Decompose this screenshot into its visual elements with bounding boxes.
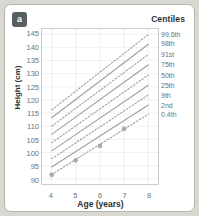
y-tick-label: 120: [13, 95, 39, 104]
y-tick-label: 145: [13, 29, 39, 38]
centile-label: 2nd: [161, 101, 173, 108]
figure-card: a Centiles Height (cm) Age (years) 90951…: [4, 4, 195, 212]
centile-legend: 99.6th98th91st75th50th25th9th2nd0.4th: [161, 28, 195, 185]
centile-label: 75th: [161, 61, 175, 68]
y-axis-tick-labels: 9095100105110115120125130135140145: [11, 28, 39, 185]
centile-label: 50th: [161, 71, 175, 78]
y-tick-label: 105: [13, 135, 39, 144]
centile-label: 98th: [161, 40, 175, 47]
y-tick-label: 135: [13, 55, 39, 64]
y-tick-label: 95: [13, 162, 39, 171]
x-tick-label: 6: [90, 191, 110, 200]
centile-label: 0.4th: [161, 111, 177, 118]
centile-label: 25th: [161, 81, 175, 88]
x-axis-tick-labels: 45678: [41, 191, 159, 203]
y-tick-label: 130: [13, 69, 39, 78]
measurement-points: [42, 29, 158, 184]
y-tick-label: 140: [13, 42, 39, 51]
x-tick-label: 7: [115, 191, 135, 200]
centile-label: 99.6th: [161, 30, 180, 37]
chart-title: Centiles: [151, 14, 185, 24]
x-tick-label: 8: [139, 191, 159, 200]
plot-area: [41, 28, 159, 185]
y-tick-label: 115: [13, 109, 39, 118]
y-tick-label: 100: [13, 149, 39, 158]
x-tick-label: 4: [41, 191, 61, 200]
y-tick-label: 110: [13, 122, 39, 131]
panel-label-badge: a: [12, 12, 27, 27]
y-tick-label: 90: [13, 175, 39, 184]
x-tick-label: 5: [65, 191, 85, 200]
centile-label: 9th: [161, 91, 171, 98]
y-tick-label: 125: [13, 82, 39, 91]
centile-label: 91st: [161, 50, 174, 57]
